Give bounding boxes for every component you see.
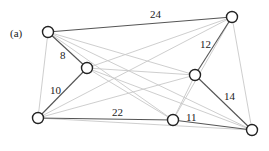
edge-weight-label: 14 <box>224 90 236 102</box>
graph-node <box>227 12 238 23</box>
weighted-edge <box>173 120 252 130</box>
light-edge <box>48 32 195 75</box>
weighted-edges <box>38 17 252 130</box>
edge-weight-label: 11 <box>186 111 197 123</box>
graph-node <box>190 70 201 81</box>
edge-weight-label: 12 <box>200 38 211 50</box>
light-edges <box>38 17 252 130</box>
graph-node <box>247 125 258 136</box>
graph-diagram: 2481210142211 (a) <box>0 0 269 151</box>
graph-node <box>168 115 179 126</box>
panel-label: (a) <box>10 27 23 40</box>
graph-node <box>82 63 93 74</box>
weighted-edge <box>48 17 232 32</box>
edge-weight-label: 24 <box>150 8 162 20</box>
light-edge <box>87 68 173 120</box>
light-edge <box>48 32 252 130</box>
graph-node <box>33 113 44 124</box>
edge-weight-label: 8 <box>60 49 66 61</box>
light-edge <box>48 32 173 120</box>
weighted-edge <box>38 68 87 118</box>
graph-node <box>43 27 54 38</box>
edge-weight-label: 10 <box>50 84 62 96</box>
light-edge <box>38 32 48 118</box>
edge-weight-label: 22 <box>112 106 123 118</box>
